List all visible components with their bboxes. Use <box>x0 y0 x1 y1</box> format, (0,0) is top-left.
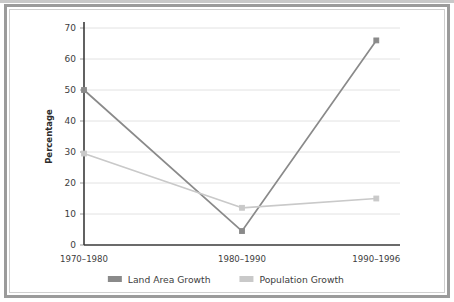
series-line-1 <box>84 40 376 231</box>
y-axis-tick-label: 40 <box>65 116 77 126</box>
y-axis-title: Percentage <box>44 109 54 164</box>
y-axis-tick-label: 70 <box>65 23 77 33</box>
y-axis-tick-label: 60 <box>65 54 77 64</box>
legend-label-2: Population Growth <box>259 274 344 285</box>
line-chart-svg: 010203040506070 1970–19801980–19901990–1… <box>0 0 454 302</box>
y-axis-tick-label: 50 <box>65 85 77 95</box>
y-axis-tick-label: 20 <box>65 178 77 188</box>
data-point-marker <box>82 88 87 93</box>
chart-figure: 010203040506070 1970–19801980–19901990–1… <box>0 0 454 302</box>
x-axis-category-labels: 1970–19801980–19901990–1996 <box>60 254 400 264</box>
x-axis-category-label: 1970–1980 <box>60 254 108 264</box>
data-point-marker <box>82 151 87 156</box>
data-point-marker <box>240 229 245 234</box>
y-axis-tick-label: 10 <box>65 209 77 219</box>
y-axis-tick-label: 0 <box>70 240 76 250</box>
legend-label-1: Land Area Growth <box>128 274 211 285</box>
chart-legend: Land Area GrowthPopulation Growth <box>108 274 344 285</box>
y-axis-tick-label: 30 <box>65 147 77 157</box>
gridlines <box>84 28 400 214</box>
data-point-marker <box>374 196 379 201</box>
y-axis-title-group: Percentage <box>44 109 54 164</box>
legend-swatch-2 <box>239 276 253 282</box>
x-axis-category-label: 1990–1996 <box>352 254 400 264</box>
data-point-marker <box>374 38 379 43</box>
data-point-marker <box>240 205 245 210</box>
axis-lines <box>84 22 400 245</box>
x-axis-category-label: 1980–1990 <box>218 254 266 264</box>
y-axis-ticks: 010203040506070 <box>65 23 84 250</box>
plot-area: 010203040506070 1970–19801980–19901990–1… <box>0 0 454 302</box>
series-line-2 <box>84 154 376 208</box>
data-series-group <box>82 38 379 233</box>
legend-swatch-1 <box>108 276 122 282</box>
